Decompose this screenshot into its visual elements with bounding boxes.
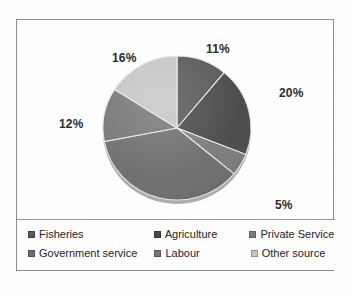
legend-item-private-service[interactable]: Private Service — [249, 228, 329, 241]
pie-shading-overlay — [103, 56, 251, 200]
legend-label: Other source — [262, 247, 326, 260]
legend-item-labour[interactable]: Labour — [154, 247, 250, 260]
legend-label: Fisheries — [39, 228, 84, 241]
slice-label-private-service: 5% — [275, 198, 293, 212]
legend-swatch-icon — [28, 250, 35, 257]
legend-item-fisheries[interactable]: Fisheries — [23, 228, 154, 241]
legend-swatch-icon — [154, 231, 161, 238]
pie-svg — [98, 46, 256, 206]
legend-swatch-icon — [249, 231, 256, 238]
legend-label: Labour — [165, 247, 199, 260]
legend-item-other-source[interactable]: Other source — [251, 247, 329, 260]
legend-row: Fisheries Agriculture Private Service — [23, 225, 329, 244]
pie-chart-frame: 11% 20% 5% 36% 12% 16% Fisheries Agricul… — [16, 19, 334, 271]
legend-label: Private Service — [260, 228, 334, 241]
pie-plot-area: 11% 20% 5% 36% 12% 16% — [17, 20, 335, 220]
legend-label: Government service — [39, 247, 137, 260]
slice-label-other-source: 16% — [112, 51, 137, 65]
slice-label-agriculture: 20% — [279, 86, 304, 100]
legend-row: Government service Labour Other source — [23, 244, 329, 263]
chart-legend: Fisheries Agriculture Private Service Go… — [17, 219, 335, 270]
legend-label: Agriculture — [165, 228, 218, 241]
slice-label-labour: 12% — [59, 117, 84, 131]
legend-swatch-icon — [251, 250, 258, 257]
pie-graphic — [98, 46, 256, 206]
legend-swatch-icon — [154, 250, 161, 257]
legend-item-government-service[interactable]: Government service — [23, 247, 154, 260]
legend-item-agriculture[interactable]: Agriculture — [154, 228, 250, 241]
slice-label-fisheries: 11% — [206, 42, 230, 56]
legend-swatch-icon — [28, 231, 35, 238]
